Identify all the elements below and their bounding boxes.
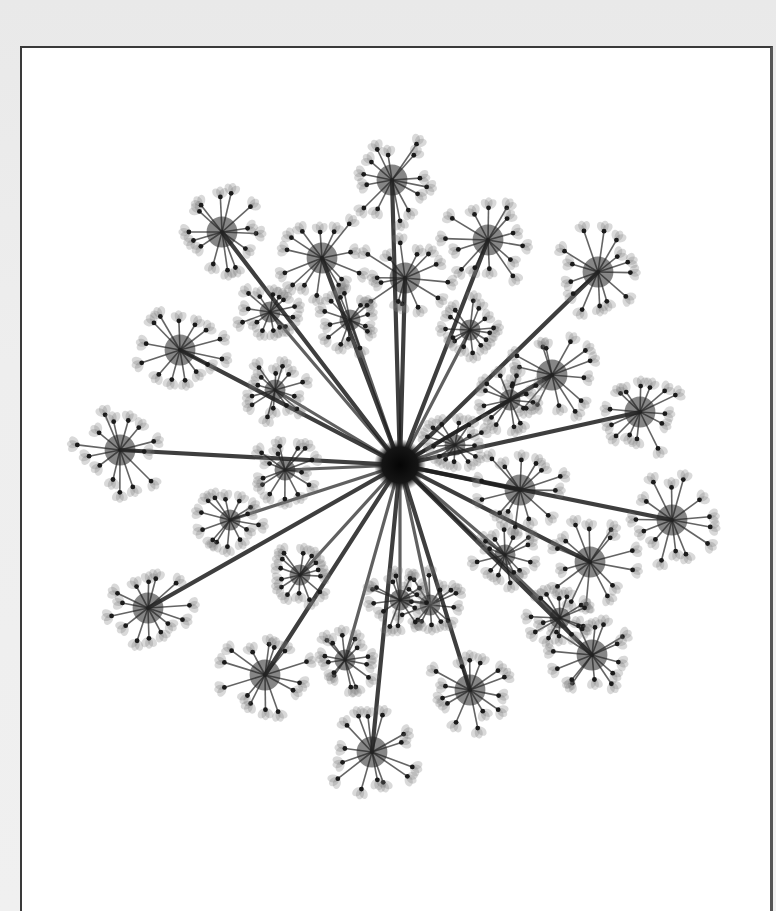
umbel-cluster [100,568,200,652]
umbel-cluster [314,282,379,359]
umbel-cluster [554,220,641,321]
umbel-cluster [251,435,323,510]
flower-xray-image [0,0,776,911]
umbel-cluster [425,650,516,740]
umbel-cluster [416,412,492,473]
umbel-cluster [435,197,534,287]
umbel-cluster [178,182,266,281]
umbel-cluster [353,133,438,232]
umbel-cluster [66,404,165,503]
flower-center [374,439,426,491]
umbel-cluster [213,633,318,723]
umbel-cluster [314,624,380,698]
umbel-cluster [241,355,314,428]
umbel-cluster [130,305,233,391]
